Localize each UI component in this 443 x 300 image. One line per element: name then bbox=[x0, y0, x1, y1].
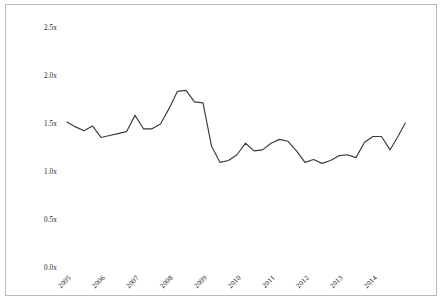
x-axis-tick-labels: 2005200620072008200920102011201220132014 bbox=[0, 0, 443, 300]
x-tick-label: 2009 bbox=[189, 274, 209, 294]
x-tick-label: 2006 bbox=[87, 274, 107, 294]
chart-figure: 2.5x2.0x1.5x1.0x0.5x0.0x 200520062007200… bbox=[0, 0, 443, 300]
x-tick-label: 2012 bbox=[291, 274, 311, 294]
x-tick-label: 2013 bbox=[325, 274, 345, 294]
x-tick-label: 2008 bbox=[155, 274, 175, 294]
x-tick-label: 2014 bbox=[359, 274, 379, 294]
x-tick-label: 2005 bbox=[53, 274, 73, 294]
x-tick-label: 2011 bbox=[257, 274, 277, 294]
x-tick-label: 2007 bbox=[121, 274, 141, 294]
x-tick-label: 2010 bbox=[223, 274, 243, 294]
